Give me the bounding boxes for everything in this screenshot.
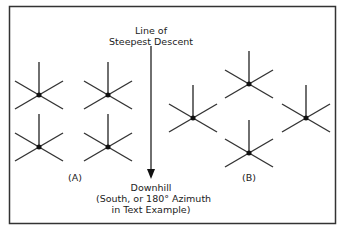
steepest-descent-arrow	[147, 46, 155, 179]
group-a-stars	[15, 62, 132, 161]
downhill-label: Downhill	[126, 182, 176, 193]
group-a-label: (A)	[60, 172, 90, 183]
downhill-detail-1: (South, or 180° Azimuth	[96, 193, 206, 204]
arrow-label-line2: Steepest Descent	[106, 36, 196, 47]
group-b-stars	[169, 51, 330, 167]
arrow-label-line1: Line of	[121, 25, 181, 36]
group-b-label: (B)	[234, 172, 264, 183]
downhill-detail-2: in Text Example)	[106, 204, 196, 215]
